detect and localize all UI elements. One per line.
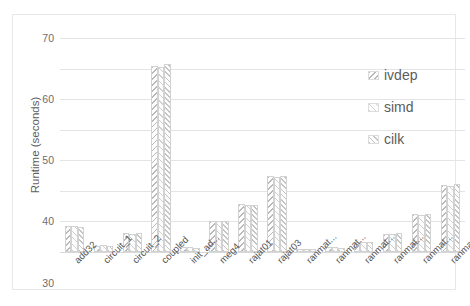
bar-group (291, 38, 320, 252)
legend-label: simd (384, 99, 414, 115)
y-axis-tick-label: 30 (42, 277, 54, 288)
bar-group (262, 38, 291, 252)
x-axis-labels: add32circuit_1circuit_2coupledinit_ad...… (60, 255, 465, 306)
legend-item-cilk[interactable]: cilk (368, 123, 463, 155)
x-axis-label-cell: ranmat... (436, 255, 465, 306)
x-axis-label-cell: circuit_2 (118, 255, 147, 306)
chart-legend: ivdepsimdcilk (368, 59, 463, 155)
bar-group (118, 38, 147, 252)
y-axis-title-text: Runtime (seconds) (29, 97, 41, 194)
y-axis-tick-label: 60 (42, 94, 54, 105)
y-axis-tick-label: 70 (42, 33, 54, 44)
x-axis-label-cell: ranmat... (378, 255, 407, 306)
bar (164, 64, 171, 252)
x-axis-label-cell: add32 (60, 255, 89, 306)
x-axis-label-cell: circuit_1 (89, 255, 118, 306)
bar-group (89, 38, 118, 252)
legend-swatch-icon (368, 71, 379, 80)
bar (280, 176, 287, 252)
legend-item-simd[interactable]: simd (368, 91, 463, 123)
legend-item-ivdep[interactable]: ivdep (368, 59, 463, 91)
legend-swatch-icon (368, 103, 379, 112)
legend-swatch-icon (368, 135, 379, 144)
bar-group (234, 38, 263, 252)
y-axis-title: Runtime (seconds) (27, 38, 43, 252)
x-axis-label-cell: init_ad... (176, 255, 205, 306)
x-axis-label-cell: rajat01 (234, 255, 263, 306)
y-axis-tick-label: 50 (42, 155, 54, 166)
x-axis-label-cell: coupled (147, 255, 176, 306)
bar-group (320, 38, 349, 252)
bar-group (60, 38, 89, 252)
bar-group (147, 38, 176, 252)
bar-group (176, 38, 205, 252)
bar-group (205, 38, 234, 252)
legend-label: ivdep (384, 67, 417, 83)
bar (454, 184, 461, 252)
x-axis-label-cell: ranmat... (349, 255, 378, 306)
y-axis-tick-label: 40 (42, 216, 54, 227)
x-axis-label-cell: meg4 (205, 255, 234, 306)
x-axis-label-cell: ranmat... (320, 255, 349, 306)
legend-label: cilk (384, 131, 404, 147)
x-axis-label-cell: rajat03 (262, 255, 291, 306)
x-axis-label-cell: ranmat... (407, 255, 436, 306)
x-axis-label-cell: ranmat... (291, 255, 320, 306)
chart-frame: Runtime (seconds) 010203040506070 add32c… (12, 14, 456, 290)
